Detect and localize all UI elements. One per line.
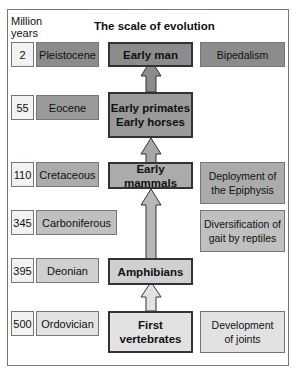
trait-box: Bipedalism: [200, 42, 285, 67]
milestone-box: Early man: [108, 42, 193, 67]
trait-line: Diversification of: [204, 217, 281, 231]
era-box: Eocene: [36, 95, 99, 120]
trait-line: Deployment of: [209, 169, 277, 183]
era-box: Carboniferous: [36, 210, 117, 235]
years-box: 395: [11, 258, 34, 283]
years-box: 55: [11, 95, 34, 120]
trait-line: the Epiphysis: [211, 183, 273, 197]
milestone-box: Early primates Early horses: [108, 92, 193, 138]
arrow-mammals-to-primates: [141, 138, 161, 164]
milestone-line: First: [138, 318, 163, 332]
trait-line: Development: [212, 318, 274, 332]
milestone-box: Amphibians: [108, 258, 193, 285]
milestone-box: Early mammals: [108, 162, 193, 189]
arrow-amphibians-to-mammals: [141, 189, 161, 260]
arrow-vertebrates-to-amphibians: [141, 282, 161, 311]
era-box: Ordovician: [36, 311, 99, 336]
years-box: 500: [11, 311, 34, 336]
era-box: Deonian: [36, 258, 99, 283]
years-box: 110: [11, 162, 34, 187]
trait-box: Development of joints: [200, 311, 285, 353]
years-box: 2: [11, 42, 34, 67]
milestone-line: Early primates: [111, 101, 190, 115]
trait-box: Diversification of gait by reptiles: [200, 210, 285, 252]
milestone-line: vertebrates: [119, 332, 181, 346]
era-box: Cretaceous: [36, 162, 99, 187]
trait-line: of joints: [224, 332, 260, 346]
years-box: 345: [11, 210, 34, 235]
milestone-box: First vertebrates: [108, 311, 193, 353]
era-box: Pleistocene: [36, 42, 99, 67]
milestone-line: Early horses: [116, 115, 185, 129]
trait-line: gait by reptiles: [209, 231, 277, 245]
trait-box: Deployment of the Epiphysis: [200, 162, 285, 204]
